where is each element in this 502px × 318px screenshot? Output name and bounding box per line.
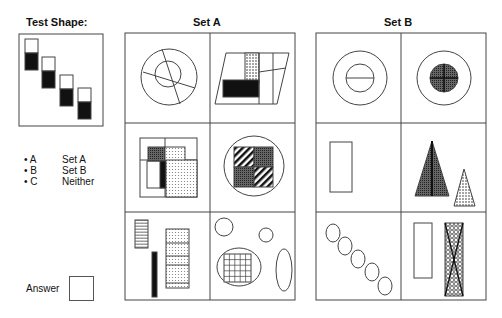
- set-a-cell-3: [140, 138, 197, 197]
- puzzle-figure: [0, 0, 502, 318]
- set-b-cell-6: [414, 223, 463, 296]
- set-a-cell-4: [224, 136, 284, 196]
- set-b-cell-1: [333, 51, 387, 105]
- test-shape: [19, 34, 103, 126]
- set-b-cell-5: [326, 224, 392, 295]
- set-b-cell-2: [417, 51, 471, 105]
- set-a-cell-1: [141, 49, 197, 105]
- set-a-cell-2: [215, 53, 289, 104]
- set-a-cell-5: [135, 220, 189, 297]
- set-a-cell-6: [215, 218, 292, 291]
- set-b-cell-4: [415, 141, 475, 206]
- set-b-cell-3: [330, 142, 352, 192]
